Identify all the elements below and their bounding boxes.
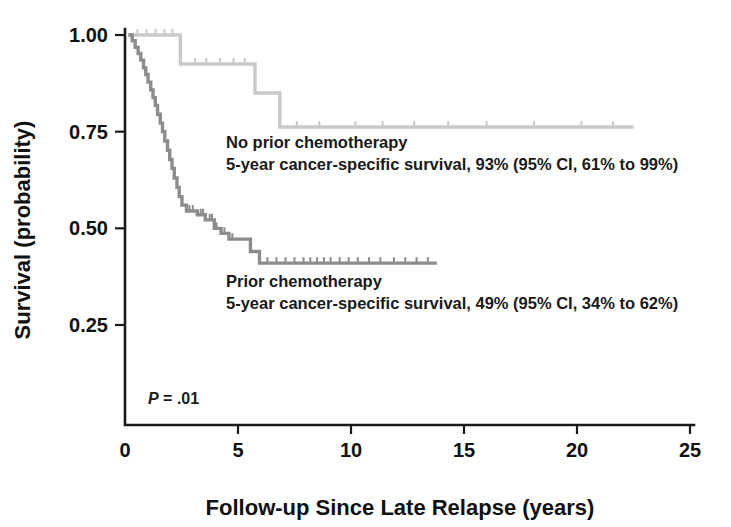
plot-axes bbox=[125, 29, 694, 425]
kaplan-meier-plot: 05101520250.250.500.751.00 Survival (pro… bbox=[0, 0, 731, 527]
annotation-no-prior-chemo-line1: No prior chemotherapy bbox=[226, 133, 408, 151]
x-axis-title: Follow-up Since Late Relapse (years) bbox=[206, 495, 595, 520]
x-tick-label-25: 25 bbox=[679, 439, 701, 461]
annotation-prior-chemo-line2: 5-year cancer-specific survival, 49% (95… bbox=[226, 294, 678, 312]
y-tick-label-0.75: 0.75 bbox=[69, 121, 108, 143]
survival-chart-figure: 05101520250.250.500.751.00 Survival (pro… bbox=[0, 0, 731, 527]
y-tick-label-0.50: 0.50 bbox=[69, 217, 108, 239]
y-axis-title: Survival (probability) bbox=[10, 121, 35, 340]
x-tick-label-0: 0 bbox=[119, 439, 130, 461]
p-value-symbol: P bbox=[148, 390, 159, 407]
y-tick-label-0.25: 0.25 bbox=[69, 314, 108, 336]
p-value-annotation: P = .01 bbox=[148, 390, 199, 407]
y-tick-label-1.00: 1.00 bbox=[69, 24, 108, 46]
annotation-no-prior-chemo-line2: 5-year cancer-specific survival, 93% (95… bbox=[226, 155, 678, 173]
x-tick-label-5: 5 bbox=[232, 439, 243, 461]
x-tick-label-20: 20 bbox=[566, 439, 588, 461]
x-tick-label-10: 10 bbox=[340, 439, 362, 461]
x-tick-label-15: 15 bbox=[453, 439, 475, 461]
axis-lines bbox=[125, 29, 694, 425]
km-curve-0 bbox=[128, 35, 633, 127]
annotation-prior-chemo-line1: Prior chemotherapy bbox=[226, 272, 383, 290]
axis-ticks bbox=[115, 35, 690, 434]
p-value-number: = .01 bbox=[159, 390, 200, 407]
